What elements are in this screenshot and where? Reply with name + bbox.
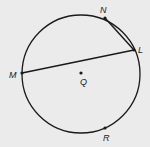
point-r [103,126,106,129]
label-r: R [103,133,110,143]
label-l: L [138,45,143,55]
point-q [79,71,82,74]
circle-diagram: N L M Q R [0,0,150,147]
chord-nl [105,18,134,50]
chord-ml [22,50,134,73]
label-q: Q [80,77,87,87]
point-m [20,71,23,74]
point-n [103,16,106,19]
label-n: N [100,5,107,15]
point-l [132,48,135,51]
label-m: M [9,70,17,80]
